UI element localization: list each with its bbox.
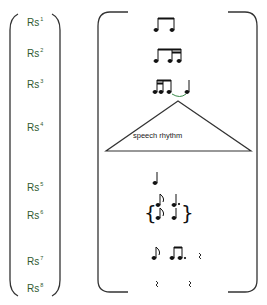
notes-rs2: [154, 49, 181, 62]
notes-rs5: [153, 172, 157, 184]
right-bracket-close: [228, 12, 257, 292]
notes-rs3: [153, 80, 189, 97]
speech-rhythm-triangle: [106, 101, 251, 151]
notes-rs6: { }: [144, 194, 194, 225]
notes-rs1: [154, 18, 174, 31]
svg-text:}: }: [181, 201, 194, 225]
notes-rs8: [156, 281, 191, 287]
notation-diagram: { }: [0, 0, 267, 305]
speech-rhythm-label: speech rhythm: [133, 131, 182, 140]
left-bracket-open: [10, 14, 18, 296]
left-bracket-close: [52, 14, 60, 296]
right-bracket-open: [98, 12, 128, 292]
notes-rs7: [152, 247, 201, 259]
svg-text:{: {: [144, 201, 157, 225]
